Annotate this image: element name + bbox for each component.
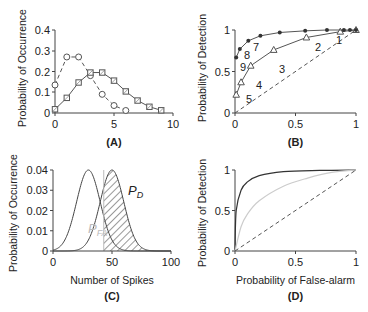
- a-xtick-1: 5: [111, 118, 117, 130]
- d-xtick-2: 1: [353, 256, 359, 268]
- panel-d-caption: (D): [288, 290, 304, 302]
- dot-marker: [342, 28, 346, 32]
- series-line: [55, 73, 161, 111]
- pd-hatched-area: [104, 170, 171, 251]
- c-ytick-3: 0.03: [27, 184, 48, 196]
- circle-marker: [52, 82, 58, 88]
- circle-marker: [123, 108, 129, 114]
- b-point-label-3: 3: [279, 63, 285, 75]
- dot-marker: [303, 29, 307, 33]
- c-ytick-0: 0: [42, 245, 48, 257]
- b-ytick-1: 0.5: [215, 66, 230, 78]
- b-point-label-1: 1: [336, 34, 342, 46]
- circle-marker: [64, 54, 70, 60]
- panel-b-ylabel: Probability of Detection: [196, 14, 208, 122]
- dot-marker: [258, 34, 262, 38]
- dot-marker: [278, 30, 282, 34]
- b-ytick-0: 0: [224, 107, 230, 119]
- c-ytick-2: 0.02: [27, 205, 48, 217]
- b-point-label-2: 2: [315, 41, 321, 53]
- dot-marker: [325, 28, 329, 32]
- a-xtick-2: 10: [167, 118, 179, 130]
- panel-d: Probability of Detection 0 0.5 1 0 0.5 1…: [196, 159, 359, 302]
- circle-marker: [99, 91, 105, 97]
- a-ytick-3: 0.3: [35, 45, 50, 57]
- circle-marker: [111, 103, 117, 109]
- c-xtick-0: 0: [50, 256, 56, 268]
- a-ytick-0: 0: [44, 107, 50, 119]
- a-ytick-4: 0.4: [35, 24, 50, 36]
- c-xtick-1: 50: [106, 256, 118, 268]
- a-xtick-0: 0: [52, 118, 58, 130]
- panel-b: Probability of Detection 0 0.5 1 0 0.5 1…: [196, 14, 359, 148]
- dot-marker: [348, 28, 352, 32]
- triangle-marker: [233, 91, 240, 97]
- b-point-label-5: 5: [246, 93, 252, 105]
- d-ytick-0: 0: [224, 245, 230, 257]
- dot-marker: [354, 28, 358, 32]
- dot-marker: [246, 39, 250, 43]
- b-xtick-0: 0: [232, 118, 238, 130]
- dot-marker: [234, 55, 238, 59]
- panel-a-ylabel: Probability of Occurrence: [16, 9, 28, 127]
- panel-d-plot: [235, 170, 356, 251]
- panel-b-caption: (B): [288, 136, 304, 148]
- b-point-label-4: 4: [256, 79, 262, 91]
- c-xtick-2: 100: [162, 256, 180, 268]
- panel-a-caption: (A): [106, 136, 122, 148]
- triangle-marker: [247, 62, 254, 68]
- d-ytick-1: 0.5: [215, 205, 230, 217]
- panel-c-ylabel: Probability of Occurrence: [7, 154, 19, 272]
- panel-c-plot: [53, 170, 171, 251]
- panel-c-caption: (C): [104, 290, 120, 302]
- circle-marker: [76, 54, 82, 60]
- c-ytick-1: 0.01: [27, 225, 48, 237]
- d-xtick-1: 0.5: [288, 256, 303, 268]
- d-xtick-0: 0: [232, 256, 238, 268]
- b-point-label-9: 9: [240, 61, 246, 73]
- b-xtick-2: 1: [353, 118, 359, 130]
- b-xtick-1: 0.5: [288, 118, 303, 130]
- panel-a-plot: [52, 54, 164, 114]
- panel-c-xlabel: Number of Spikes: [70, 274, 153, 286]
- panel-c: Probability of Occurrence 0 0.01 0.02 0.…: [7, 154, 180, 302]
- pd-annotation: PD: [128, 183, 144, 200]
- a-ytick-1: 0.1: [35, 86, 50, 98]
- b-ytick-2: 1: [224, 24, 230, 36]
- triangle-marker: [238, 79, 245, 85]
- a-ytick-2: 0.2: [35, 66, 50, 78]
- c-ytick-4: 0.04: [27, 164, 48, 176]
- panel-d-ylabel: Probability of Detection: [196, 159, 208, 267]
- panel-a: Probability of Occurrence 0 0.1 0.2 0.3 …: [16, 9, 179, 148]
- figure: Probability of Occurrence 0 0.1 0.2 0.3 …: [0, 0, 368, 312]
- dot-marker: [238, 47, 242, 51]
- d-ytick-2: 1: [224, 164, 230, 176]
- b-point-label-7: 7: [253, 41, 259, 53]
- panel-d-xlabel: Probability of False-alarm: [236, 274, 355, 286]
- b-point-label-8: 8: [244, 49, 250, 61]
